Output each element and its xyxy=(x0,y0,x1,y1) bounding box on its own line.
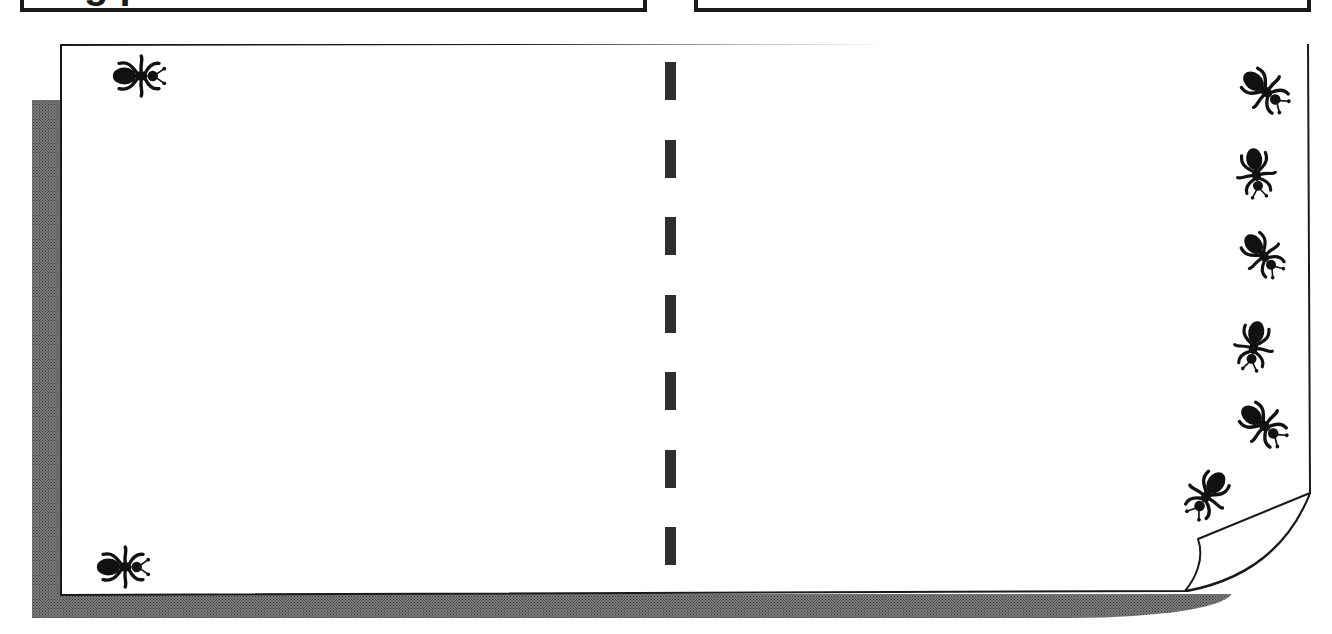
divider-dash xyxy=(665,527,676,565)
ant-icon xyxy=(1224,314,1284,376)
ant-icon xyxy=(1226,60,1302,120)
page-outline xyxy=(60,44,1322,604)
divider-dash xyxy=(665,295,676,333)
ant-icon xyxy=(84,543,160,591)
divider-dash xyxy=(665,217,676,255)
ant-icon xyxy=(1226,142,1286,202)
ant-icon xyxy=(1172,462,1244,526)
divider-dash xyxy=(665,450,676,488)
ant-icon xyxy=(1226,224,1298,284)
top-box-right xyxy=(694,0,1311,12)
ant-icon xyxy=(1224,394,1300,454)
worksheet-page xyxy=(60,44,1310,594)
divider-dash xyxy=(665,62,676,100)
divider-dash xyxy=(665,140,676,178)
page-shadow-left xyxy=(32,100,62,618)
ant-icon xyxy=(100,52,176,100)
top-box-left: g p xyxy=(20,0,647,12)
top-box-left-title: g p xyxy=(84,0,144,4)
divider-dash xyxy=(665,372,676,410)
